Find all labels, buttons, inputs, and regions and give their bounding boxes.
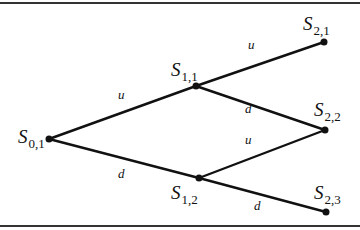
- node-label-s12: S1,2: [171, 183, 198, 202]
- edge-label-s01-s11: u: [118, 88, 125, 101]
- node-label-s11: S1,1: [171, 60, 198, 79]
- node-dot-s12: [196, 175, 203, 182]
- node-symbol: S: [303, 13, 313, 34]
- edge-label-s12-s22: u: [245, 133, 252, 146]
- diagram-frame: S0,1 S1,1 S1,2 S2,1 S2,2 S2,3 u d u d u …: [0, 0, 360, 230]
- node-dot-s23: [323, 209, 330, 216]
- node-symbol: S: [314, 182, 324, 203]
- node-subscript: 1,1: [182, 69, 198, 84]
- node-dot-s22: [322, 127, 329, 134]
- node-subscript: 2,2: [325, 109, 341, 124]
- edge-s11-s22: [196, 86, 325, 130]
- node-subscript: 2,3: [325, 192, 341, 207]
- node-symbol: S: [171, 59, 181, 80]
- node-label-s22: S2,2: [314, 100, 341, 119]
- edge-label-s11-s22: d: [245, 102, 252, 115]
- node-dot-s21: [321, 39, 328, 46]
- node-label-s01: S0,1: [18, 127, 45, 146]
- edge-label-s12-s23: d: [254, 199, 261, 212]
- node-subscript: 1,2: [182, 192, 198, 207]
- node-symbol: S: [171, 182, 181, 203]
- node-subscript: 2,1: [314, 23, 330, 38]
- node-symbol: S: [18, 126, 28, 147]
- node-label-s21: S2,1: [303, 14, 330, 33]
- edge-s12-s23: [199, 178, 326, 212]
- edge-label-s01-s12: d: [118, 167, 125, 180]
- node-subscript: 0,1: [29, 136, 45, 151]
- edge-s11-s21: [196, 42, 324, 86]
- node-dot-s01: [46, 136, 53, 143]
- node-label-s23: S2,3: [314, 183, 341, 202]
- edge-label-s11-s21: u: [248, 38, 255, 51]
- node-symbol: S: [314, 99, 324, 120]
- edge-s12-s22: [199, 130, 325, 178]
